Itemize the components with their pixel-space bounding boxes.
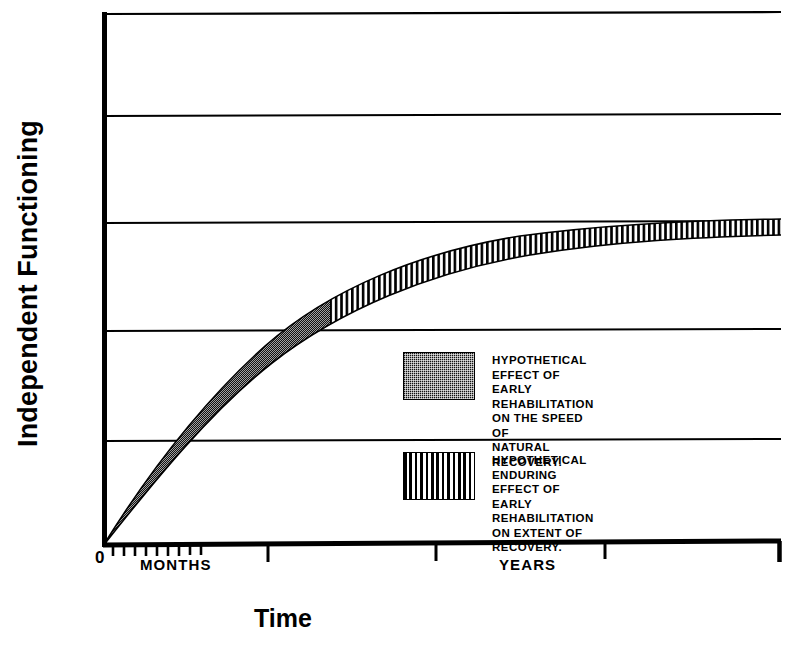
- x-axis-origin-label: 0: [95, 548, 104, 568]
- chart-figure: Independent Functioning Time 0 MONTHS YE…: [0, 0, 791, 660]
- x-axis-region-months: MONTHS: [140, 556, 212, 573]
- vertical-hatch-swatch-icon: [403, 452, 475, 500]
- legend-label-extent: HYPOTHETICAL ENDURING EFFECT OF EARLY RE…: [492, 452, 594, 555]
- legend-item-extent: HYPOTHETICAL ENDURING EFFECT OF EARLY RE…: [403, 452, 594, 555]
- stipple-swatch-icon: [403, 352, 475, 400]
- x-axis-region-years: YEARS: [499, 556, 556, 573]
- x-axis-title: Time: [103, 604, 463, 633]
- y-axis-title: Independent Functioning: [13, 24, 44, 544]
- plot-canvas: [0, 0, 791, 660]
